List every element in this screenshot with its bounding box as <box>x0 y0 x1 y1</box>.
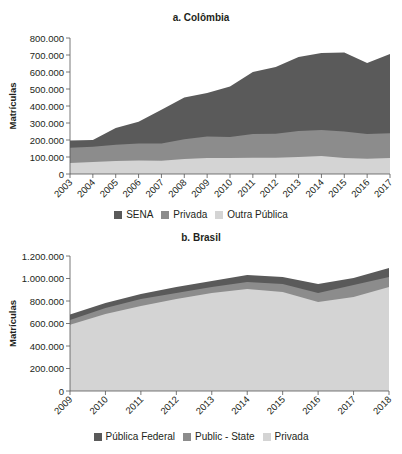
legend-item-public-state: Public - State <box>183 431 254 442</box>
legend-swatch-public-state <box>183 433 191 441</box>
y-tick-label: 1.000.000 <box>22 273 64 284</box>
legend-label-public-state: Public - State <box>195 431 254 442</box>
legend-brasil: Pública Federal Public - State Privada <box>0 431 402 442</box>
x-tick-label: 2011 <box>123 394 145 416</box>
x-tick-label: 2015 <box>264 394 287 417</box>
x-tick-label: 2009 <box>52 394 75 417</box>
y-tick-label: 200.000 <box>30 363 64 374</box>
x-tick-label: 2014 <box>229 394 252 417</box>
legend-swatch-publica-federal <box>94 433 102 441</box>
x-tick-label: 2017 <box>335 394 358 417</box>
legend-label-publica-federal: Pública Federal <box>106 431 175 442</box>
legend-label-privada-br: Privada <box>275 431 309 442</box>
brasil-area-chart: 0200.000400.000600.000800.0001.000.0001.… <box>0 0 402 454</box>
y-tick-label: 400.000 <box>30 341 64 352</box>
y-tick-label: 600.000 <box>30 318 64 329</box>
x-tick-label: 2016 <box>300 394 323 417</box>
y-tick-label: 0 <box>59 386 64 397</box>
legend-item-publica-federal: Pública Federal <box>94 431 175 442</box>
x-tick-label: 2018 <box>371 394 394 417</box>
x-tick-label: 2013 <box>193 394 216 417</box>
y-axis-title: Matrículas <box>7 300 18 347</box>
legend-swatch-privada-br <box>263 433 271 441</box>
legend-item-privada-br: Privada <box>263 431 309 442</box>
x-tick-label: 2012 <box>158 394 181 417</box>
x-tick-label: 2010 <box>87 394 110 417</box>
y-tick-label: 800.000 <box>30 296 64 307</box>
y-tick-label: 1.200.000 <box>22 251 64 262</box>
